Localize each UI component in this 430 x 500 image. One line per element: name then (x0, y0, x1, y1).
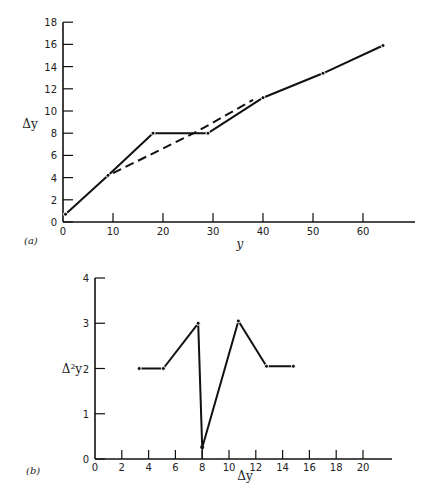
x-tick-label: 60 (357, 226, 370, 237)
x-tick-label: 8 (199, 462, 205, 473)
data-point (265, 364, 269, 368)
x-tick-label: 16 (303, 462, 316, 473)
x-tick-label: 20 (157, 226, 170, 237)
x-tick-label: 40 (257, 226, 270, 237)
series-line-second-difference (139, 321, 293, 448)
y-tick-label: 6 (51, 150, 57, 161)
chart-panel-b: 0123402468101214161820Δ²yΔy(b) (26, 273, 392, 483)
chart-panel-a: 0246810121416180102030405060Δyy(a) (22, 17, 415, 251)
y-axis-title: Δ²y (62, 362, 82, 376)
y-tick-label: 1 (83, 409, 89, 420)
y-tick-label: 10 (44, 106, 57, 117)
y-tick-label: 2 (51, 195, 57, 206)
y-tick-label: 0 (51, 217, 57, 228)
x-axis-title: Δy (237, 469, 253, 483)
data-point (261, 96, 265, 100)
y-axis-title: Δy (22, 117, 38, 131)
data-point (137, 367, 141, 371)
y-tick-label: 14 (44, 62, 57, 73)
series-line-smoothed (113, 100, 253, 173)
data-point (236, 319, 240, 323)
x-axis-title: y (236, 237, 244, 251)
series-line-observed (66, 46, 384, 215)
y-tick-label: 4 (51, 173, 57, 184)
y-tick-label: 4 (83, 273, 89, 284)
panel-label: (b) (26, 465, 40, 476)
x-tick-label: 0 (92, 462, 98, 473)
x-tick-label: 0 (60, 226, 66, 237)
x-tick-label: 2 (119, 462, 125, 473)
x-tick-label: 18 (330, 462, 343, 473)
y-tick-label: 16 (44, 39, 57, 50)
x-tick-label: 30 (207, 226, 220, 237)
data-point (291, 364, 295, 368)
y-tick-label: 0 (83, 454, 89, 465)
x-tick-label: 20 (357, 462, 370, 473)
y-tick-label: 8 (51, 128, 57, 139)
data-point (321, 71, 325, 75)
data-point (381, 44, 385, 48)
y-tick-label: 12 (44, 84, 57, 95)
x-tick-label: 10 (223, 462, 236, 473)
data-point (196, 321, 200, 325)
marker-dot (200, 445, 204, 449)
data-point (106, 173, 110, 177)
figure: 0246810121416180102030405060Δyy(a) 01234… (0, 0, 430, 500)
x-tick-label: 4 (145, 462, 151, 473)
x-tick-label: 14 (276, 462, 289, 473)
x-tick-label: 50 (307, 226, 320, 237)
data-point (64, 212, 68, 216)
y-tick-label: 2 (83, 364, 89, 375)
x-tick-label: 6 (172, 462, 178, 473)
data-point (161, 367, 165, 371)
panel-label: (a) (24, 235, 38, 246)
data-point (151, 131, 155, 135)
data-point (206, 131, 210, 135)
y-tick-label: 18 (44, 17, 57, 28)
y-tick-label: 3 (83, 318, 89, 329)
x-tick-label: 10 (107, 226, 120, 237)
